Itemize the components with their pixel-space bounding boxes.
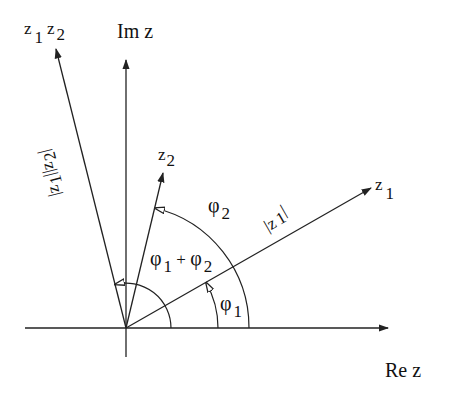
label-phi1: φ1	[220, 292, 242, 321]
label-z1z2: z1z2	[24, 19, 65, 47]
magnitude-label-z1z2: |z1||z2|	[34, 147, 69, 199]
re-axis-label: Re z	[385, 359, 421, 381]
label-z1: z1	[375, 175, 394, 203]
label-phi2: φ2	[208, 194, 230, 223]
svg-text:|z1||z2|: |z1||z2|	[34, 147, 69, 199]
label-phi1-plus-phi2: φ1 + φ2	[150, 247, 212, 276]
label-z2: z2	[158, 145, 175, 170]
complex-multiplication-diagram: Im z Re z z1 z2 z1z2 |z1| |z1||z2| φ2 φ1…	[0, 0, 451, 396]
vector-z1z2	[56, 49, 126, 328]
im-axis-label: Im z	[117, 20, 153, 42]
magnitude-label-z1: |z1|	[258, 201, 293, 236]
svg-text:|z1|: |z1|	[258, 201, 293, 236]
arc-phi1-plus-phi2	[115, 283, 171, 328]
arc-phi1	[206, 283, 218, 329]
